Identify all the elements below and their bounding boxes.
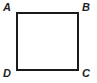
vertex-label-b: B — [82, 2, 90, 13]
square-shape — [16, 12, 79, 71]
vertex-label-d: D — [3, 68, 11, 79]
vertex-label-a: A — [3, 2, 11, 13]
vertex-label-c: C — [82, 68, 90, 79]
geometry-figure-canvas: A B C D — [0, 0, 97, 83]
